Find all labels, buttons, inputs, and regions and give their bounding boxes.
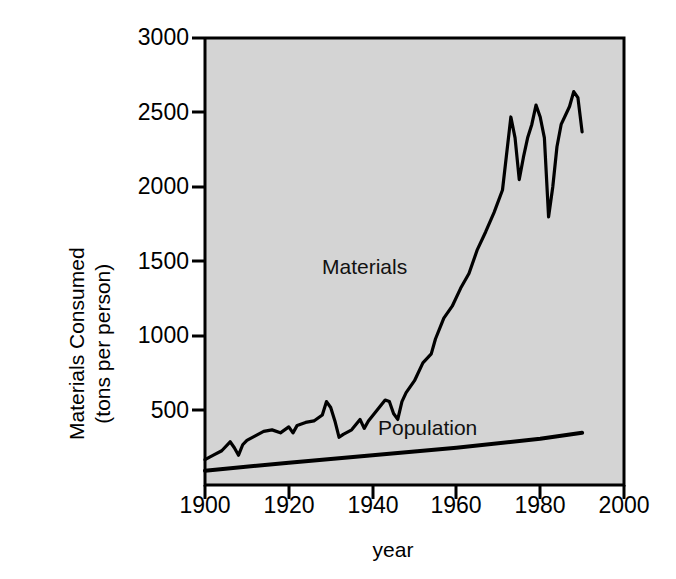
x-tick-2000: 2000 (579, 492, 669, 518)
y-tick-1500: 1500 (103, 250, 189, 273)
x-tick-1900: 1900 (160, 492, 250, 518)
y-axis-title-line1: Materials Consumed (65, 247, 88, 440)
y-axis-title-area: Materials Consumed (tons per person) (0, 0, 105, 500)
y-axis-ticks (192, 38, 205, 410)
annotation-population: Population (378, 417, 477, 438)
x-tick-1920: 1920 (244, 492, 334, 518)
y-tick-2000: 2000 (103, 175, 189, 198)
chart-figure: Materials Consumed (tons per person) 300… (0, 0, 676, 579)
x-tick-1960: 1960 (411, 492, 501, 518)
x-axis-title-area: year (0, 538, 676, 562)
y-tick-1000: 1000 (103, 324, 189, 347)
x-tick-1980: 1980 (495, 492, 585, 518)
x-axis-tick-labels: 1900 1920 1940 1960 1980 2000 (0, 492, 676, 532)
x-tick-1940: 1940 (328, 492, 418, 518)
y-tick-500: 500 (103, 399, 189, 422)
y-tick-3000: 3000 (103, 26, 189, 49)
x-axis-title: year (373, 538, 414, 561)
y-tick-2500: 2500 (103, 101, 189, 124)
annotation-materials: Materials (322, 256, 407, 277)
y-axis-tick-labels: 3000 2500 2000 1500 1000 500 (103, 0, 189, 500)
